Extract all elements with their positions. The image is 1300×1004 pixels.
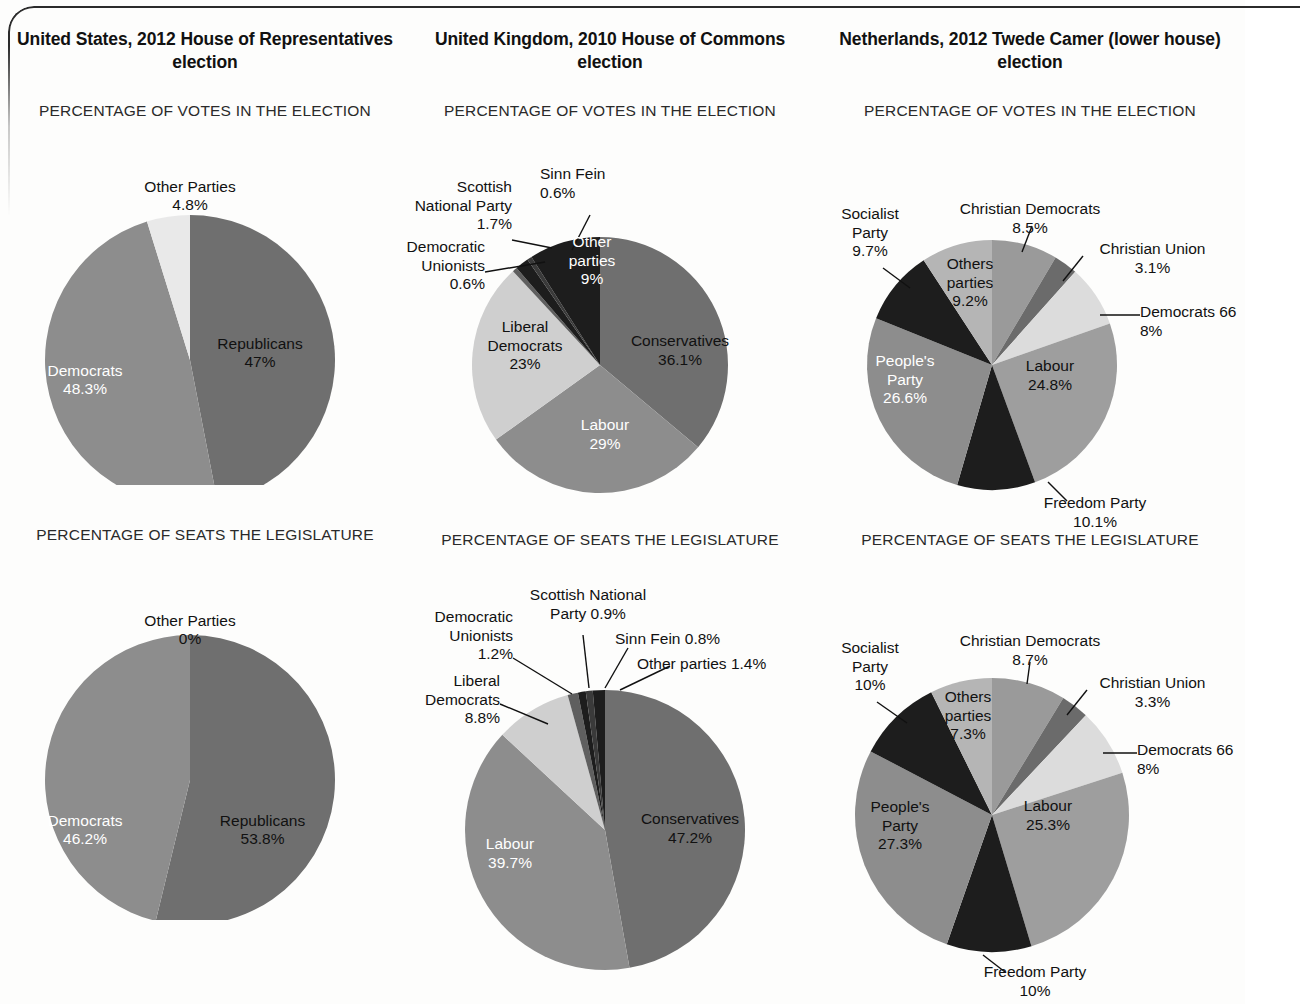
- label-uk-seats-democratic-unionists: Democratic Unionists 1.2%: [380, 608, 513, 664]
- label-uk-votes-liberal-democrats: Liberal Democrats 23%: [460, 318, 590, 374]
- label-uk-votes-other-parties: Other parties 9%: [547, 233, 637, 289]
- label-us-votes-other-value: 4.8%: [55, 196, 325, 215]
- label-uk-votes-snp: Scottish National Party 1.7%: [400, 178, 512, 234]
- label-us-votes-democrats-name: Democrats: [10, 362, 160, 381]
- label-uk-seats-conservatives: Conservatives 47.2%: [610, 810, 770, 847]
- column-united-kingdom: United Kingdom, 2010 House of Commons el…: [400, 0, 820, 1004]
- label-us-votes-republicans-value: 47%: [180, 353, 340, 372]
- label-nl-seats-peoples-party: People's Party 27.3%: [845, 798, 955, 854]
- label-uk-seats-sinn-fein: Sinn Fein 0.8%: [615, 630, 775, 649]
- label-us-seats-democrats-value: 46.2%: [10, 830, 160, 849]
- label-nl-votes-democrats-66: Democrats 66 8%: [1140, 303, 1270, 340]
- label-nl-seats-others-parties: Others parties 7.3%: [918, 688, 1018, 744]
- column-title-netherlands: Netherlands, 2012 Twede Camer (lower hou…: [815, 28, 1245, 74]
- column-united-states: United States, 2012 House of Representat…: [0, 0, 410, 1004]
- section-head-nl-votes: PERCENTAGE OF VOTES IN THE ELECTION: [815, 101, 1245, 121]
- label-us-seats-other-name: Other Parties: [55, 612, 325, 631]
- label-uk-seats-snp: Scottish National Party 0.9%: [488, 586, 688, 623]
- label-nl-votes-freedom-party: Freedom Party 10.1%: [1000, 494, 1190, 531]
- label-uk-seats-liberal-democrats: Liberal Democrats 8.8%: [390, 672, 500, 728]
- label-nl-seats-labour: Labour 25.3%: [993, 797, 1103, 834]
- label-us-seats-republicans-value: 53.8%: [185, 830, 340, 849]
- label-nl-votes-christian-democrats: Christian Democrats 8.5%: [905, 200, 1155, 237]
- label-uk-votes-conservatives: Conservatives 36.1%: [605, 332, 755, 369]
- label-us-votes-republicans-name: Republicans: [180, 335, 340, 354]
- label-nl-votes-labour: Labour 24.8%: [995, 357, 1105, 394]
- label-us-votes-democrats-value: 48.3%: [10, 380, 160, 399]
- label-us-seats-republicans-name: Republicans: [185, 812, 340, 831]
- section-head-us-votes: PERCENTAGE OF VOTES IN THE ELECTION: [0, 101, 410, 121]
- label-nl-votes-others-parties: Others parties 9.2%: [920, 255, 1020, 311]
- label-nl-votes-socialist-party: Socialist Party 9.7%: [815, 205, 925, 261]
- label-uk-votes-democratic-unionists: Democratic Unionists 0.6%: [375, 238, 485, 294]
- label-uk-seats-labour: Labour 39.7%: [450, 835, 570, 872]
- label-nl-seats-christian-democrats: Christian Democrats 8.7%: [905, 632, 1155, 669]
- label-uk-votes-sinn-fein: Sinn Fein 0.6%: [540, 165, 670, 202]
- label-nl-votes-peoples-party: People's Party 26.6%: [850, 352, 960, 408]
- label-nl-seats-socialist-party: Socialist Party 10%: [815, 639, 925, 695]
- section-head-uk-seats: PERCENTAGE OF SEATS THE LEGISLATURE: [400, 530, 820, 550]
- column-title-united-states: United States, 2012 House of Representat…: [0, 28, 410, 74]
- label-nl-votes-christian-union: Christian Union 3.1%: [1060, 240, 1245, 277]
- label-us-seats-other-value: 0%: [55, 630, 325, 649]
- label-us-seats-democrats-name: Democrats: [10, 812, 160, 831]
- label-uk-votes-labour: Labour 29%: [550, 416, 660, 453]
- section-head-uk-votes: PERCENTAGE OF VOTES IN THE ELECTION: [400, 101, 820, 121]
- column-netherlands: Netherlands, 2012 Twede Camer (lower hou…: [815, 0, 1245, 1004]
- section-head-us-seats: PERCENTAGE OF SEATS THE LEGISLATURE: [0, 525, 410, 545]
- column-title-united-kingdom: United Kingdom, 2010 House of Commons el…: [400, 28, 820, 74]
- label-us-votes-other-name: Other Parties: [55, 178, 325, 197]
- label-uk-seats-other-parties: Other parties 1.4%: [637, 655, 822, 674]
- section-head-nl-seats: PERCENTAGE OF SEATS THE LEGISLATURE: [815, 530, 1245, 550]
- label-nl-seats-freedom-party: Freedom Party 10%: [940, 963, 1130, 1000]
- label-nl-seats-christian-union: Christian Union 3.3%: [1060, 674, 1245, 711]
- label-nl-seats-democrats-66: Democrats 66 8%: [1137, 741, 1267, 778]
